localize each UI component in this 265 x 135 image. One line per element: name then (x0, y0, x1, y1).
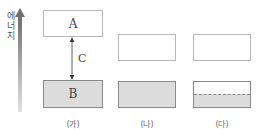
partial-fill-region (194, 94, 250, 107)
panel-ga-box-b: B (43, 80, 103, 108)
panel-label-na: (나) (127, 118, 167, 129)
box-b-label: B (44, 81, 102, 107)
panel-na-lower-box (118, 81, 176, 108)
panel-da-upper-box (193, 34, 251, 61)
double-headed-arrow-icon (68, 37, 76, 80)
panel-label-da: (다) (202, 118, 242, 129)
panel-ga-box-a: A (43, 10, 103, 37)
energy-up-arrow-icon (14, 8, 26, 112)
gap-label-c: C (78, 52, 86, 65)
panel-da-lower-box (193, 81, 251, 108)
panel-na-upper-box (118, 34, 176, 61)
box-a-label: A (44, 11, 102, 36)
panel-label-ga: (가) (53, 118, 93, 129)
